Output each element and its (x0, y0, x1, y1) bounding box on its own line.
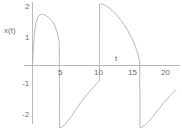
y-tick-label-2: 2 (25, 2, 29, 11)
y-tick-label-1: 1 (25, 33, 29, 42)
x-tick-label-15: 15 (128, 68, 137, 77)
x-tick-label-20: 20 (161, 68, 170, 77)
chart-figure: 2 1 -1 -2 5 10 15 20 x(t) t (0, 0, 182, 129)
x-tick-label-10: 10 (94, 68, 103, 77)
y-tick-label-minus-1: -1 (22, 79, 29, 88)
y-axis-title: x(t) (4, 26, 16, 35)
y-tick-label-minus-2: -2 (22, 110, 29, 119)
x-axis-title: t (115, 54, 117, 63)
x-tick-label-5: 5 (58, 68, 62, 77)
